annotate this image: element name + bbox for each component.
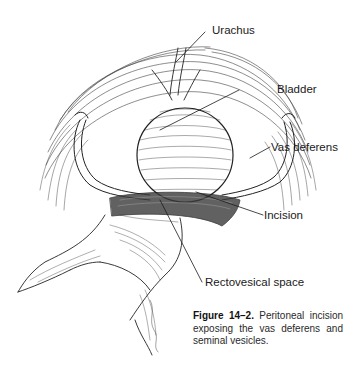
retractor-hatching (30, 215, 178, 340)
label-urachus: Urachus (212, 24, 255, 37)
retractor-tissue (18, 215, 182, 355)
figure-number: Figure 14–2. (193, 310, 254, 321)
bladder-sphere (137, 108, 233, 202)
label-incision: Incision (264, 209, 303, 222)
artist-signature (150, 300, 158, 352)
label-rectovesical-space: Rectovesical space (205, 276, 304, 289)
label-vas-deferens: Vas deferens (271, 141, 338, 154)
incision-band (110, 192, 240, 226)
figure-caption: Figure 14–2. Peritoneal incision exposin… (193, 310, 343, 348)
anatomical-figure: Urachus Bladder Vas deferens Incision Re… (0, 0, 356, 368)
label-bladder: Bladder (277, 83, 317, 96)
